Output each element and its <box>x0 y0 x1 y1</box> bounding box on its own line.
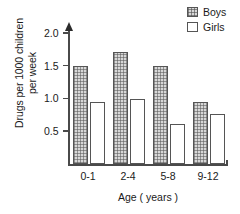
x-axis-line <box>68 164 228 166</box>
legend-label-boys: Boys <box>203 6 226 18</box>
y-axis-line <box>68 25 70 166</box>
legend-item-boys: Boys <box>187 4 226 19</box>
bar-girls-5-8 <box>170 124 185 164</box>
bar-chart: Drugs per 1000 children per week 0.51.01… <box>0 0 240 214</box>
bar-girls-2-4 <box>130 99 145 164</box>
y-axis-tick: 1.0 <box>63 98 69 99</box>
y-axis-tick: 2.0 <box>63 32 69 33</box>
y-axis-tick-label: 1.5 <box>44 60 59 72</box>
y-axis-tick: 0.5 <box>63 130 69 131</box>
plot-area: 0.51.01.52.0 0-12-45-89-12 <box>68 20 228 166</box>
x-axis-title: Age ( years ) <box>68 191 228 203</box>
bar-girls-0-1 <box>90 102 105 164</box>
bar-boys-9-12 <box>193 102 208 164</box>
y-axis-tick-label: 0.5 <box>44 125 59 137</box>
x-axis-category-label: 2-4 <box>108 170 148 182</box>
y-axis-tick-label: 2.0 <box>44 27 59 39</box>
y-axis-arrow-icon <box>65 22 73 31</box>
chart-legend: Boys Girls <box>187 4 226 34</box>
y-axis-title-line-2: per week <box>26 52 39 94</box>
legend-swatch-girls-icon <box>187 22 198 32</box>
x-axis-category-label: 5-8 <box>148 170 188 182</box>
y-axis-tick: 1.5 <box>63 65 69 66</box>
legend-label-girls: Girls <box>203 21 225 33</box>
y-axis-tick-label: 1.0 <box>44 92 59 104</box>
y-axis-title: Drugs per 1000 children per week <box>6 0 46 148</box>
bar-boys-0-1 <box>73 66 88 164</box>
x-axis-category-label: 0-1 <box>68 170 108 182</box>
legend-swatch-boys-icon <box>187 7 198 17</box>
legend-item-girls: Girls <box>187 19 226 34</box>
bar-girls-9-12 <box>210 114 225 164</box>
y-axis-title-line-1: Drugs per 1000 children <box>13 18 26 128</box>
bar-boys-5-8 <box>153 66 168 164</box>
x-axis-end-cap <box>226 160 228 166</box>
x-axis-category-label: 9-12 <box>188 170 228 182</box>
bar-boys-2-4 <box>113 52 128 165</box>
